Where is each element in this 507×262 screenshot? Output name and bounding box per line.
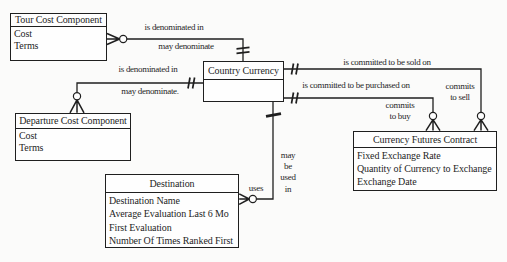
relationship-label-may-denominate-2: may denominate. (121, 86, 178, 96)
relationship-label-uses: uses (249, 183, 263, 193)
entity-attributes: Cost Terms (16, 129, 130, 160)
crows-foot-buy (426, 120, 440, 131)
cardinality-tick-cc-left-2 (193, 78, 195, 89)
entity-attribute: Fixed Exchange Rate (357, 149, 494, 162)
crows-foot-tour (107, 34, 120, 45)
cardinality-tick-used-in (266, 114, 281, 117)
cardinality-tick-cc-top-1 (237, 47, 250, 48)
cardinality-tick-cc-left-1 (188, 78, 190, 89)
entity-attributes: Destination Name Average Evaluation Last… (106, 193, 238, 248)
entity-attribute: Cost (19, 130, 128, 142)
entity-attribute: Destination Name (109, 194, 236, 207)
cardinality-tick-cc-top-2 (237, 52, 250, 53)
label-line: commits (386, 100, 415, 111)
entity-attributes: Cost Terms (11, 27, 106, 60)
entity-attribute: Average Evaluation Last 6 Mo (109, 207, 236, 220)
label-line: used (280, 172, 295, 183)
entity-country-currency: Country Currency (203, 61, 284, 102)
entity-attribute: First Evaluation (109, 221, 236, 234)
crows-foot-destination (239, 194, 249, 205)
relationship-label-commits-to-sell: commits to sell (446, 81, 475, 103)
entity-tour-cost-component: Tour Cost Component Cost Terms (10, 13, 107, 61)
entity-currency-futures-contract: Currency Futures Contract Fixed Exchange… (353, 131, 497, 191)
entity-attribute: Terms (14, 40, 104, 52)
relationship-label-may-denominate: may denominate (158, 41, 214, 51)
entity-title: Currency Futures Contract (354, 132, 496, 148)
entity-attribute: Number Of Times Ranked First (109, 234, 236, 247)
entity-attribute: Exchange Date (357, 175, 494, 188)
entity-attributes (204, 80, 283, 101)
er-diagram-canvas: Tour Cost Component Cost Terms Country C… (0, 0, 507, 262)
relationship-label-commits-to-buy: commits to buy (386, 100, 415, 122)
entity-title: Tour Cost Component (11, 14, 106, 27)
relationship-label-committed-purchased-on: is committed to be purchased on (302, 80, 409, 90)
label-line: in (280, 184, 295, 195)
entity-attribute: Terms (19, 142, 128, 154)
label-line: to buy (386, 111, 415, 122)
label-line: commits (446, 81, 475, 92)
entity-departure-cost-component: Departure Cost Component Cost Terms (15, 113, 131, 161)
relationship-label-committed-sold-on: is committed to be sold on (343, 57, 430, 67)
cardinality-tick-purchased-1 (292, 93, 294, 104)
cardinality-tick-sold-2 (296, 64, 298, 75)
entity-title: Departure Cost Component (16, 114, 130, 129)
relationship-label-may-be-used-in: may be used in (280, 150, 295, 195)
entity-attributes: Fixed Exchange Rate Quantity of Currency… (354, 148, 496, 190)
optionality-circle-buy (429, 112, 436, 119)
entity-destination: Destination Destination Name Average Eva… (105, 174, 239, 248)
crows-foot-sell (474, 120, 488, 131)
optionality-circle-departure (73, 93, 80, 100)
label-line: be (280, 161, 295, 172)
optionality-circle-tour (120, 35, 127, 42)
optionality-circle-sell (477, 112, 484, 119)
entity-title: Destination (106, 175, 238, 193)
optionality-circle-destination (249, 195, 256, 202)
relationship-label-is-denominated-in: is denominated in (145, 22, 204, 32)
crows-foot-departure (70, 100, 84, 113)
entity-title: Country Currency (204, 62, 283, 80)
cardinality-tick-purchased-2 (296, 93, 298, 104)
relationship-label-is-denominated-in-2: is denominated in (119, 64, 178, 74)
label-line: may (280, 150, 295, 161)
label-line: to sell (446, 92, 475, 103)
cardinality-tick-sold-1 (292, 64, 294, 75)
entity-attribute: Quantity of Currency to Exchange (357, 162, 494, 175)
entity-attribute: Cost (14, 28, 104, 40)
